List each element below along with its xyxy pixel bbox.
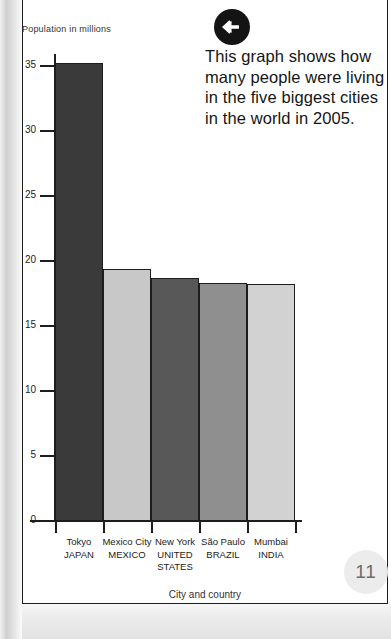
y-axis-tick-label: 25 <box>8 189 36 200</box>
y-axis-tick <box>40 195 55 197</box>
y-axis-tick <box>40 455 55 457</box>
y-axis-title: Population in millions <box>22 24 111 34</box>
y-axis-tick <box>40 390 55 392</box>
bar-chart-plot-area <box>55 63 293 521</box>
page-root: This graph shows how many people were li… <box>0 0 391 639</box>
x-axis-tick <box>103 521 105 533</box>
city-name: New York <box>155 536 195 547</box>
bar-são-paulo <box>199 283 247 521</box>
country-name: INDIA <box>242 549 300 562</box>
x-axis-tick <box>151 521 153 533</box>
y-axis-tick-label: 10 <box>8 384 36 395</box>
y-axis-tick-label: 35 <box>8 59 36 70</box>
y-axis-tick <box>40 130 55 132</box>
y-axis-tick <box>40 65 55 67</box>
city-name: São Paulo <box>201 536 245 547</box>
y-axis-tick <box>40 325 55 327</box>
bar-new-york <box>151 278 199 521</box>
bar-tokyo <box>55 63 103 521</box>
city-name: Mumbai <box>254 536 288 547</box>
y-axis-tick-label: 30 <box>8 124 36 135</box>
city-name: Tokyo <box>67 536 92 547</box>
city-name: Mexico City <box>102 536 151 547</box>
y-axis-tick-label: 5 <box>8 449 36 460</box>
bar-mumbai <box>247 284 295 521</box>
arrow-left-circle-icon <box>213 8 251 46</box>
y-axis-tick <box>40 260 55 262</box>
y-axis-tick-label: 15 <box>8 319 36 330</box>
y-axis-tick <box>40 520 55 522</box>
y-axis-tick-label: 20 <box>8 254 36 265</box>
x-axis-tick <box>55 521 57 533</box>
x-axis-tick <box>295 521 297 533</box>
category-label-mumbai: MumbaiINDIA <box>242 536 300 561</box>
y-axis-tick-label: 0 <box>8 514 36 525</box>
bar-mexico-city <box>103 269 151 521</box>
x-axis-tick <box>247 521 249 533</box>
page-number: 11 <box>344 550 388 594</box>
x-axis-tick <box>199 521 201 533</box>
x-axis-title: City and country <box>22 589 388 600</box>
